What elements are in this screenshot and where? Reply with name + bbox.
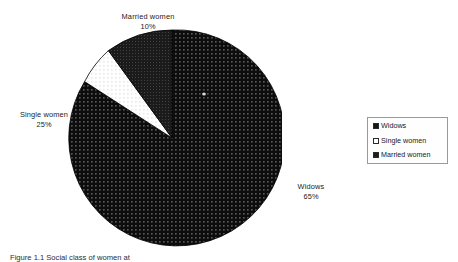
legend-item-widows: Widows [373,122,443,130]
slice-label-married-women-name: Married women [122,12,175,21]
legend-item-married-women-label: Married women [381,151,431,159]
slice-label-widows: Widows 65% [274,182,348,201]
legend-item-single-women: Single women [373,137,443,145]
slice-label-single-women: Single women 25% [6,110,82,129]
white-square-swatch-icon [373,138,379,144]
slice-label-married-women-percent: 10% [96,22,200,32]
slice-label-married-women: Married women 10% [96,12,200,31]
slice-label-widows-percent: 65% [274,192,348,202]
legend-item-widows-label: Widows [381,122,406,130]
figure-caption: Figure 1.1 Social class of women at [10,253,450,262]
legend-item-single-women-label: Single women [381,137,426,145]
legend-item-married-women: Married women [373,151,443,159]
slice-label-widows-name: Widows [298,182,325,191]
dark-square-swatch-icon [373,152,379,158]
slice-label-single-women-percent: 25% [6,120,82,130]
speck-artifact [202,92,206,95]
pie-chart [62,28,282,248]
dark-square-swatch-icon [373,123,379,129]
pie-chart-svg [62,28,282,248]
slice-label-single-women-name: Single women [20,110,68,119]
chart-legend: Widows Single women Married women [367,117,448,164]
